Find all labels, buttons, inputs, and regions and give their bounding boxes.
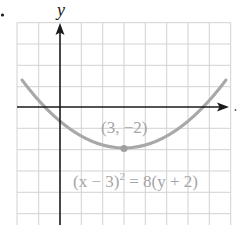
parabola-graph: y (3, −2) (x − 3)2 = 8(y + 2): [0, 0, 238, 225]
vertex-point: [120, 145, 127, 152]
y-axis-label: y: [55, 0, 65, 20]
equation-lhs: (x − 3): [73, 172, 119, 191]
vertex-label: (3, −2): [101, 118, 147, 137]
equation-rhs: = 8(y + 2): [125, 172, 198, 191]
bullet-dot: [1, 13, 4, 16]
trailing-dot: [235, 109, 237, 111]
equation-label: (x − 3)2 = 8(y + 2): [73, 170, 198, 191]
